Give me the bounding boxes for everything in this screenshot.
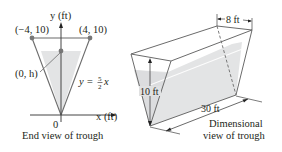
height-label: 10 ft xyxy=(140,86,159,97)
width-arrow-right-icon xyxy=(248,20,252,23)
point-right-label: (4, 10) xyxy=(79,24,107,36)
length-ext-back xyxy=(236,96,262,102)
back-top-edge xyxy=(217,26,252,30)
equation-variable: x xyxy=(103,76,109,87)
origin-label: 0 xyxy=(53,119,58,130)
equation-denominator: 2 xyxy=(98,83,102,91)
height-arrow-up-icon xyxy=(148,58,152,63)
y-axis-arrow-icon xyxy=(59,22,63,28)
point-left-dot xyxy=(30,36,35,41)
dimensional-view: 10 ft 8 ft 30 ft Dimensional view of tro… xyxy=(131,14,266,141)
point-h-label: (0, h) xyxy=(15,68,38,80)
x-axis-label: x (ft) xyxy=(96,111,118,123)
width-arrow-left-icon xyxy=(217,18,221,21)
trough-diagram: y (ft) (−4, 10) (4, 10) (0, h) 0 x (ft) … xyxy=(0,0,282,152)
length-arrow-front-icon xyxy=(166,128,172,132)
end-view-caption: End view of trough xyxy=(22,130,104,141)
top-left-long-edge xyxy=(131,26,217,54)
front-top-edge xyxy=(131,54,171,61)
length-label: 30 ft xyxy=(201,103,220,114)
end-view: y (ft) (−4, 10) (4, 10) (0, h) 0 x (ft) … xyxy=(15,10,118,141)
width-label: 8 ft xyxy=(226,14,240,25)
dimensional-caption-line2: view of trough xyxy=(203,130,266,141)
y-axis-label: y (ft) xyxy=(50,10,72,22)
line-equation: y = 5 2 x xyxy=(78,75,109,91)
equation-lhs: y = xyxy=(78,76,93,87)
point-left-label: (−4, 10) xyxy=(15,24,49,36)
length-ext-front xyxy=(150,127,180,134)
length-arrow-back-icon xyxy=(243,99,249,103)
point-h-dot xyxy=(59,49,64,54)
point-right-dot xyxy=(88,36,93,41)
equation-numerator: 5 xyxy=(98,75,102,83)
dimensional-caption-line1: Dimensional xyxy=(209,118,263,129)
